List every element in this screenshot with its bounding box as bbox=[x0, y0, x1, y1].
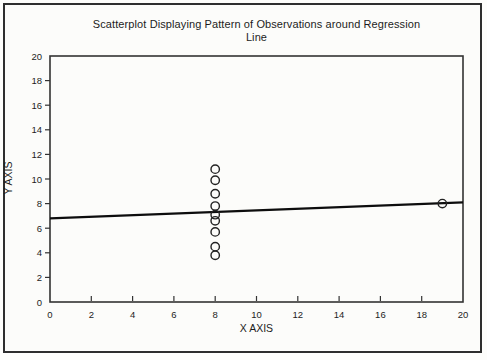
x-tick-label: 4 bbox=[130, 309, 135, 320]
scatter-point bbox=[211, 217, 219, 225]
scatter-chart: 0246810121416182002468101214161820 bbox=[0, 0, 487, 360]
y-tick-label: 12 bbox=[31, 149, 42, 160]
x-tick-label: 16 bbox=[375, 309, 386, 320]
scatter-point bbox=[211, 228, 219, 236]
y-tick-label: 14 bbox=[31, 124, 42, 135]
scatter-point bbox=[211, 190, 219, 198]
scatter-point bbox=[211, 202, 219, 210]
x-tick-label: 0 bbox=[47, 309, 52, 320]
y-tick-label: 0 bbox=[37, 297, 42, 308]
plot-border bbox=[50, 56, 463, 302]
scatter-point bbox=[211, 242, 219, 250]
y-tick-label: 2 bbox=[37, 272, 42, 283]
y-tick-label: 8 bbox=[37, 198, 42, 209]
x-tick-label: 18 bbox=[416, 309, 427, 320]
x-tick-label: 6 bbox=[171, 309, 176, 320]
regression-line bbox=[50, 202, 463, 218]
y-tick-label: 10 bbox=[31, 174, 42, 185]
x-tick-label: 8 bbox=[213, 309, 218, 320]
x-tick-label: 12 bbox=[293, 309, 304, 320]
x-axis-title: X AXIS bbox=[50, 322, 463, 334]
scatter-point bbox=[211, 251, 219, 259]
y-tick-label: 20 bbox=[31, 51, 42, 62]
y-tick-label: 18 bbox=[31, 75, 42, 86]
x-tick-label: 10 bbox=[251, 309, 262, 320]
scatter-point bbox=[211, 176, 219, 184]
x-tick-label: 14 bbox=[334, 309, 345, 320]
y-axis-title: Y AXIS bbox=[2, 113, 14, 243]
y-tick-label: 4 bbox=[37, 247, 42, 258]
scatter-point bbox=[211, 165, 219, 173]
y-tick-label: 6 bbox=[37, 223, 42, 234]
figure-page: Scatterplot Displaying Pattern of Observ… bbox=[0, 0, 487, 360]
x-tick-label: 2 bbox=[89, 309, 94, 320]
y-tick-label: 16 bbox=[31, 100, 42, 111]
x-tick-label: 20 bbox=[458, 309, 469, 320]
